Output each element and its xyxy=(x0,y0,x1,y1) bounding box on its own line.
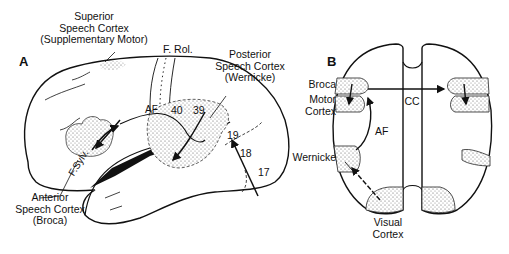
visual-right xyxy=(422,187,455,213)
area-17-label: 17 xyxy=(258,166,270,178)
wernicke-label: Wernicke xyxy=(282,152,336,164)
area-18-label: 18 xyxy=(240,147,252,159)
visual-cortex-label: Visual Cortex xyxy=(358,217,418,240)
area-19-label: 19 xyxy=(227,129,239,141)
arcuate-fasciculus-label-a: AF xyxy=(145,104,158,116)
visual-left xyxy=(366,187,403,213)
arcuate-fasciculus-label-b: AF xyxy=(375,126,388,138)
panel-a-letter: A xyxy=(19,54,28,69)
panel-b-letter: B xyxy=(327,54,336,69)
area-40-label: 40 xyxy=(171,104,183,116)
area-39-label: 39 xyxy=(193,104,205,116)
superior-speech-cortex-label: Superior Speech Cortex (Supplementary Mo… xyxy=(34,11,154,46)
motor-right xyxy=(451,96,490,112)
supplementary-motor-area xyxy=(100,61,126,70)
axial-brain-drawing xyxy=(333,44,492,214)
broca-right xyxy=(448,78,490,94)
wernicke-right-small xyxy=(462,149,490,166)
anterior-speech-cortex-label: Anterior Speech Cortex (Broca) xyxy=(10,192,90,227)
motor-cortex-label: Motor Cortex xyxy=(290,94,336,117)
broca-label: Broca xyxy=(294,79,336,91)
rolandic-fissure-label: F. Rol. xyxy=(163,44,193,56)
posterior-speech-cortex-label: Posterior Speech Cortex (Wernicke) xyxy=(200,49,300,84)
corpus-callosum-label: CC xyxy=(402,96,422,108)
